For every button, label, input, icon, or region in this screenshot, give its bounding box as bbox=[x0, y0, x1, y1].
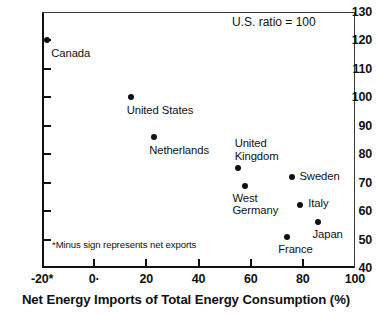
y-tick-mark bbox=[42, 239, 51, 241]
x-axis-title: Net Energy Imports of Total Energy Consu… bbox=[0, 292, 372, 307]
y-tick-label: 90 bbox=[336, 120, 372, 132]
data-point-label: Sweden bbox=[299, 170, 339, 183]
y-tick-mark bbox=[42, 182, 51, 184]
y-tick-label: 70 bbox=[336, 177, 372, 189]
data-point bbox=[128, 94, 134, 100]
y-tick-mark bbox=[42, 210, 51, 212]
data-point-label: France bbox=[278, 243, 313, 256]
x-tick-label: 40 bbox=[177, 272, 221, 286]
y-tick-mark bbox=[42, 68, 51, 70]
y-tick-label: 130 bbox=[336, 6, 372, 18]
x-tick-mark bbox=[250, 259, 252, 268]
data-point-label: United Kingdom bbox=[235, 137, 279, 162]
y-tick-mark bbox=[42, 96, 51, 98]
plot-frame-top-edge bbox=[42, 12, 355, 13]
data-point-label: Canada bbox=[51, 47, 90, 60]
data-point-label: West Germany bbox=[232, 192, 278, 217]
x-tick-mark bbox=[302, 259, 304, 268]
y-tick-mark bbox=[42, 125, 51, 127]
footnote-minus-sign: *Minus sign represents net exports bbox=[52, 239, 196, 250]
data-point-label: Netherlands bbox=[149, 144, 209, 157]
data-point-label: Italy bbox=[308, 197, 328, 210]
x-tick-mark bbox=[198, 259, 200, 268]
data-point-label: United States bbox=[127, 104, 194, 117]
x-tick-label: 20 bbox=[124, 272, 168, 286]
x-tick-label: 100 bbox=[333, 272, 377, 286]
x-tick-label: 60 bbox=[229, 272, 273, 286]
x-tick-label: -20* bbox=[20, 272, 64, 286]
y-tick-label: 120 bbox=[336, 34, 372, 46]
y-tick-label: 80 bbox=[336, 148, 372, 160]
data-point bbox=[242, 183, 248, 189]
us-ratio-annotation: U.S. ratio = 100 bbox=[232, 15, 316, 29]
x-tick-label: 0· bbox=[72, 272, 116, 286]
y-tick-mark bbox=[42, 153, 51, 155]
data-point bbox=[284, 234, 290, 240]
x-tick-label: 80 bbox=[281, 272, 325, 286]
y-tick-label: 110 bbox=[336, 63, 372, 75]
data-point-label: Japan bbox=[312, 228, 342, 241]
plot-frame-right-edge bbox=[354, 12, 355, 268]
y-tick-label: 60 bbox=[336, 205, 372, 217]
x-tick-mark bbox=[93, 259, 95, 268]
y-tick-label: 100 bbox=[336, 91, 372, 103]
x-tick-mark bbox=[145, 259, 147, 268]
